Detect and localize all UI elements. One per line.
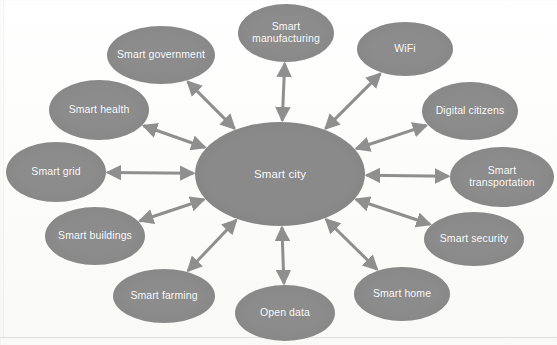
node-label-smart-manufacturing: Smart manufacturing [238,21,334,45]
node-label-smart-home: Smart home [367,288,437,300]
node-smart-health[interactable]: Smart health [49,80,149,140]
arrow-smart-city-to-open-data [282,227,284,283]
node-label-digital-citizens: Digital citizens [430,105,511,117]
node-label-smart-security: Smart security [434,233,515,245]
node-digital-citizens[interactable]: Digital citizens [422,82,518,140]
node-smart-manufacturing[interactable]: Smart manufacturing [238,4,334,62]
node-label-smart-buildings: Smart buildings [52,230,138,242]
node-smart-security[interactable]: Smart security [424,212,524,266]
node-smart-transportation[interactable]: Smart transportation [450,147,554,207]
node-smart-grid[interactable]: Smart grid [6,142,106,202]
node-label-smart-city: Smart city [248,168,312,181]
arrow-smart-city-to-wifi [325,74,380,129]
node-label-smart-government: Smart government [111,49,211,61]
node-smart-government[interactable]: Smart government [107,26,215,84]
page-edge-left [3,0,4,338]
arrow-smart-city-to-smart-home [326,219,377,269]
arrow-smart-city-to-smart-farming [188,220,236,271]
node-label-smart-farming: Smart farming [124,290,203,302]
arrow-smart-city-to-smart-health [143,126,205,148]
node-smart-home[interactable]: Smart home [354,267,450,321]
arrow-smart-city-to-smart-grid [107,172,193,173]
node-smart-buildings[interactable]: Smart buildings [45,207,145,265]
node-wifi[interactable]: WiFi [357,22,453,76]
arrow-smart-city-to-smart-transportation [366,175,448,176]
arrow-smart-city-to-digital-citizens [356,125,426,148]
arrow-smart-city-to-smart-government [188,82,235,129]
arrow-smart-city-to-smart-manufacturing [282,63,284,120]
node-smart-farming[interactable]: Smart farming [113,269,215,323]
node-smart-city[interactable]: Smart city [195,122,365,226]
node-label-smart-grid: Smart grid [25,166,86,178]
node-label-smart-transportation: Smart transportation [450,165,554,189]
smart-city-diagram: Smart city Smart manufacturingWiFiDigita… [0,0,557,345]
arrow-smart-city-to-smart-security [356,199,430,224]
node-label-open-data: Open data [254,307,316,319]
node-label-smart-health: Smart health [63,104,136,116]
node-open-data[interactable]: Open data [235,285,335,341]
node-label-wifi: WiFi [388,43,421,55]
arrow-smart-city-to-smart-buildings [140,199,204,221]
